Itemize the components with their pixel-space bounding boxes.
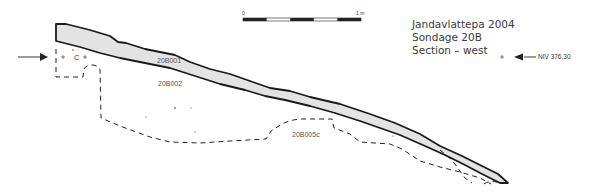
level-label: NIV 376,30 [538,53,571,60]
layer-label-20B002: 20B002 [158,80,182,87]
scale-end-label: 1 m [356,10,364,16]
sondage-title: Sondage 20B [412,31,515,44]
level-arrow-icon [514,54,536,61]
find-points [72,49,393,136]
title-block: Jandavlattepa 2004 Sondage 20B Section –… [412,18,515,57]
layer-label-20B001: 20B001 [157,57,181,64]
scale-bar [243,18,361,21]
left-arrow-icon [18,53,48,61]
point-c-label: C [74,53,79,62]
cut-outline [56,49,508,184]
site-title: Jandavlattepa 2004 [412,18,515,31]
section-title: Section – west [412,44,515,57]
scale-start-label: 0 [242,10,245,16]
layer-label-20B005c: 20B005c [292,131,320,138]
